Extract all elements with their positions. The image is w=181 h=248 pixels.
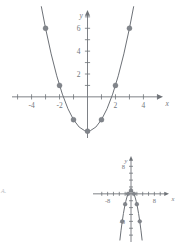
graph-page: -4-224246 x y -888-8 x y A. — [0, 0, 181, 248]
main-parabola-svg: -4-224246 x y — [0, 0, 181, 150]
x-axis-label: x — [165, 99, 170, 108]
x-tick-label: 2 — [114, 101, 118, 110]
data-point — [138, 219, 142, 223]
data-point — [129, 189, 133, 193]
y-axis-arrow — [129, 156, 133, 161]
data-point — [57, 83, 62, 88]
y-axis-label: y — [79, 11, 84, 20]
x-tick-label: -8 — [105, 197, 110, 204]
x-tick-label: -4 — [28, 101, 34, 110]
main-parabola-figure: -4-224246 x y — [0, 0, 181, 150]
inset-parabola-svg: -888-8 x y — [85, 148, 181, 248]
y-tick-label: 6 — [77, 24, 81, 33]
x-tick-label: -2 — [56, 101, 62, 110]
x-axis-arrow — [164, 192, 169, 196]
x-axis-label: x — [171, 195, 175, 202]
data-point — [127, 26, 132, 31]
x-axis-arrow — [157, 94, 163, 99]
data-point — [132, 192, 136, 196]
data-point — [113, 83, 118, 88]
data-point — [123, 202, 127, 206]
data-point — [43, 26, 48, 31]
x-tick-label: 4 — [142, 101, 146, 110]
data-point — [71, 117, 76, 122]
x-tick-label: 8 — [153, 197, 156, 204]
y-axis-label: y — [124, 157, 128, 164]
answer-choice-label: A. — [1, 188, 6, 195]
data-point — [126, 192, 130, 196]
data-point — [99, 117, 104, 122]
y-tick-label: 4 — [77, 47, 81, 56]
data-point — [135, 202, 139, 206]
inset-parabola-figure: -888-8 x y — [85, 148, 181, 248]
y-tick-label: 2 — [77, 70, 81, 79]
data-point — [120, 219, 124, 223]
data-point — [85, 129, 90, 134]
y-axis-arrow — [85, 10, 90, 16]
